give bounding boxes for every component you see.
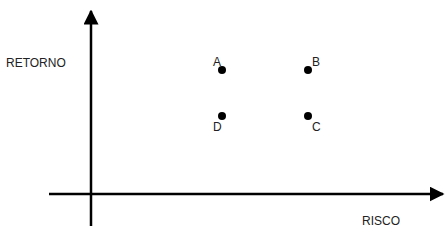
x-axis-label: RISCO	[362, 214, 400, 226]
point-label-a: A	[213, 55, 221, 69]
point-d	[218, 112, 226, 120]
point-label-d: D	[213, 120, 222, 134]
points-layer: ABCD	[213, 55, 321, 134]
point-label-c: C	[312, 120, 321, 134]
risk-return-diagram: RETORNO RISCO ABCD	[0, 0, 445, 226]
y-axis-label: RETORNO	[6, 56, 66, 70]
point-label-b: B	[312, 55, 320, 69]
point-c	[304, 112, 312, 120]
point-b	[304, 66, 312, 74]
